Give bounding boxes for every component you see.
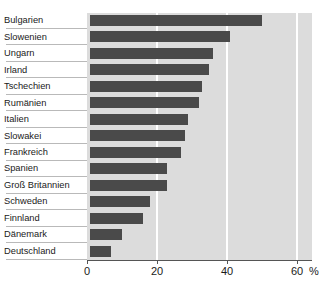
label-leader-line xyxy=(6,110,87,111)
bar xyxy=(90,130,185,141)
bar-row xyxy=(87,128,312,144)
bar xyxy=(90,196,150,207)
category-label: Frankreich xyxy=(0,147,83,158)
x-tick-mark xyxy=(87,260,88,264)
category-label: Finnland xyxy=(0,213,83,224)
bar xyxy=(90,246,111,257)
bar-row xyxy=(87,178,312,194)
bars-group xyxy=(87,13,312,260)
category-label: Slowakei xyxy=(0,131,83,142)
label-leader-line xyxy=(6,94,87,95)
bar xyxy=(90,97,199,108)
bar xyxy=(90,31,230,42)
bar-row xyxy=(87,211,312,227)
category-label: Tschechien xyxy=(0,81,83,92)
bar xyxy=(90,180,167,191)
bar xyxy=(90,114,188,125)
bar-chart: BulgarienSlowenienUngarnIrlandTschechien… xyxy=(0,0,327,301)
category-label: Bulgarien xyxy=(0,15,83,26)
bar-row xyxy=(87,13,312,29)
bar-row xyxy=(87,62,312,78)
label-leader-line xyxy=(6,193,87,194)
bar-row xyxy=(87,46,312,62)
label-leader-line xyxy=(6,143,87,144)
plot-area xyxy=(87,13,312,260)
label-leader-line xyxy=(6,160,87,161)
category-label: Italien xyxy=(0,114,83,125)
label-leader-line xyxy=(6,259,87,260)
category-label: Deutschland xyxy=(0,246,83,257)
label-leader-line xyxy=(6,242,87,243)
bar xyxy=(90,64,209,75)
label-leader-line xyxy=(6,176,87,177)
label-leader-line xyxy=(6,61,87,62)
category-label: Groß Britannien xyxy=(0,180,83,191)
x-axis-line xyxy=(87,260,312,261)
bar xyxy=(90,213,143,224)
bar-row xyxy=(87,227,312,243)
axis-unit-label: % xyxy=(309,265,319,277)
x-tick-mark xyxy=(227,260,228,264)
category-labels: BulgarienSlowenienUngarnIrlandTschechien… xyxy=(0,13,87,260)
bar-row xyxy=(87,79,312,95)
bar xyxy=(90,15,262,26)
category-label: Dänemark xyxy=(0,229,83,240)
bar-row xyxy=(87,29,312,45)
x-tick-mark xyxy=(157,260,158,264)
bar-row xyxy=(87,244,312,260)
bar xyxy=(90,48,213,59)
bar-row xyxy=(87,145,312,161)
bar xyxy=(90,229,122,240)
x-tick-label: 60 xyxy=(291,265,303,277)
category-label: Irland xyxy=(0,65,83,76)
category-label: Rumänien xyxy=(0,98,83,109)
x-tick-label: 20 xyxy=(151,265,163,277)
label-leader-line xyxy=(6,226,87,227)
label-leader-line xyxy=(6,77,87,78)
bar-row xyxy=(87,194,312,210)
bar-row xyxy=(87,112,312,128)
label-leader-line xyxy=(6,209,87,210)
category-label: Ungarn xyxy=(0,48,83,59)
bar xyxy=(90,147,181,158)
bar xyxy=(90,81,202,92)
category-label: Spanien xyxy=(0,163,83,174)
category-label: Schweden xyxy=(0,196,83,207)
label-leader-line xyxy=(6,127,87,128)
bar xyxy=(90,163,167,174)
category-label: Slowenien xyxy=(0,32,83,43)
label-leader-line xyxy=(6,44,87,45)
bar-row xyxy=(87,95,312,111)
x-tick-label: 0 xyxy=(84,265,90,277)
label-leader-line xyxy=(6,28,87,29)
x-tick-label: 40 xyxy=(221,265,233,277)
bar-row xyxy=(87,161,312,177)
x-tick-mark xyxy=(297,260,298,264)
